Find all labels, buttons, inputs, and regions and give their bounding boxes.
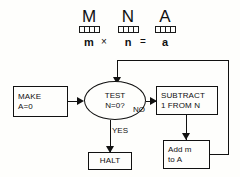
- node-subtract-line2: 1 FROM N: [161, 101, 217, 111]
- equation-operand-a: a: [150, 36, 180, 48]
- edge-loop-segment-right-up: [228, 60, 229, 155]
- node-add-line2: to A: [168, 155, 209, 165]
- register-cell: [133, 26, 139, 33]
- node-test-line1: TEST: [105, 91, 125, 101]
- register-cells-m: [74, 26, 104, 33]
- node-test-line2: N=0?: [105, 101, 124, 111]
- register-cells-n: [113, 26, 143, 33]
- node-make-line2: A=0: [18, 102, 67, 112]
- register-group-a: A: [150, 8, 180, 33]
- node-subtract-line1: SUBTRACT: [161, 91, 217, 101]
- register-group-n: N: [113, 8, 143, 33]
- register-cells-a: [150, 26, 180, 33]
- edge-loop-segment-top: [117, 60, 229, 61]
- register-group-m: M: [74, 8, 104, 33]
- equation-times-operator: ×: [96, 36, 112, 48]
- register-label-n: N: [113, 8, 143, 25]
- node-subtract-one-from-n[interactable]: SUBTRACT 1 FROM N: [156, 86, 218, 115]
- edge-label-yes: YES: [112, 126, 128, 135]
- node-halt-label: HALT: [100, 156, 120, 166]
- edge-loop-segment-right-out: [210, 154, 229, 155]
- edge-make-to-test-arrowhead: [77, 97, 84, 105]
- flowchart-canvas: M N A: [0, 0, 240, 177]
- equation-row: m × n = a: [0, 36, 240, 50]
- node-test-n-zero[interactable]: TEST N=0?: [84, 81, 146, 120]
- node-halt[interactable]: HALT: [88, 152, 132, 170]
- edge-label-no: NO: [133, 105, 145, 114]
- edge-subtract-to-add-arrowhead: [182, 133, 190, 140]
- node-add-line1: Add m: [168, 145, 209, 155]
- register-cell: [94, 26, 100, 33]
- register-label-m: M: [74, 8, 104, 25]
- register-header: M N A: [0, 0, 240, 52]
- node-make-a-zero[interactable]: MAKE A=0: [13, 86, 68, 117]
- node-add-m-to-a[interactable]: Add m to A: [163, 140, 210, 169]
- equation-equals-operator: =: [135, 36, 151, 48]
- register-cell: [170, 26, 176, 33]
- register-label-a: A: [150, 8, 180, 25]
- node-make-line1: MAKE: [18, 92, 67, 102]
